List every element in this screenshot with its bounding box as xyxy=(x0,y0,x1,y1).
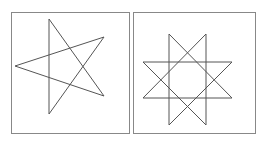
eight-pointed-star-shape xyxy=(143,34,232,125)
figure-canvas xyxy=(0,0,262,143)
five-pointed-star-shape xyxy=(15,19,104,114)
panel-five-pointed-star xyxy=(12,13,130,134)
panel-eight-pointed-star xyxy=(134,13,256,134)
panel-frame-right xyxy=(134,13,256,134)
panel-frame-left xyxy=(12,13,130,134)
